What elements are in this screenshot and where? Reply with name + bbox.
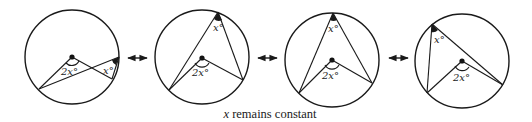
circle-diagram-4: 2x° x°: [415, 14, 509, 108]
circle-diagram-1: 2x° x°: [25, 10, 119, 104]
chord-line: [169, 12, 218, 90]
central-angle-arc: [455, 66, 469, 71]
inscribed-angle-diagram: 2x° x° 2x° x° 2x° x°: [0, 0, 532, 122]
central-angle-label: 2x°: [60, 66, 78, 77]
chord-line: [427, 24, 432, 93]
inscribed-angle-label: x°: [213, 22, 224, 33]
caption: x remains constant: [222, 107, 317, 121]
central-angle-label: 2x°: [452, 72, 470, 83]
inscribed-angle-label: x°: [103, 65, 114, 76]
caption-text: remains constant: [229, 107, 317, 121]
circle-diagram-3: 2x° x°: [285, 13, 379, 107]
central-angle-label: 2x°: [191, 67, 209, 78]
circle-diagram-2: 2x° x°: [155, 10, 249, 104]
inscribed-angle-label: x°: [434, 34, 445, 45]
inscribed-angle-label: x°: [328, 23, 339, 34]
central-angle-label: 2x°: [321, 70, 339, 81]
